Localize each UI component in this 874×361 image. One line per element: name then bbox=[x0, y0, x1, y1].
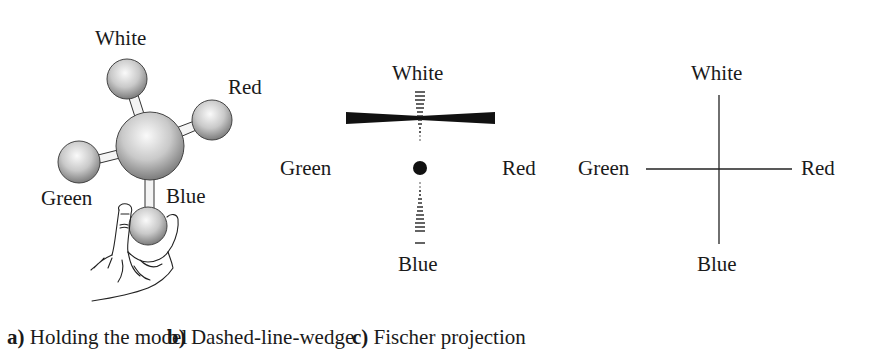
label-white: White bbox=[691, 63, 742, 84]
panel-fischer-projection: White Red Green Blue bbox=[570, 0, 874, 310]
caption-a: a) Holding the model bbox=[7, 327, 187, 348]
caption-b-text: Dashed-line-wedge bbox=[191, 325, 354, 349]
label-red: Red bbox=[801, 158, 835, 179]
red-sphere bbox=[192, 100, 232, 140]
caption-b-letter: b) bbox=[167, 325, 186, 349]
label-blue: Blue bbox=[398, 254, 438, 275]
caption-a-letter: a) bbox=[7, 325, 25, 349]
panel-holding-model: White Red Green Blue bbox=[0, 0, 290, 310]
green-sphere bbox=[58, 141, 100, 183]
label-blue: Blue bbox=[166, 186, 206, 207]
label-blue: Blue bbox=[697, 254, 737, 275]
label-white: White bbox=[392, 63, 443, 84]
white-sphere bbox=[107, 59, 147, 99]
panel-dashed-line-wedge: White Red Green Blue bbox=[270, 0, 560, 310]
caption-c-text: Fischer projection bbox=[374, 325, 526, 349]
caption-b: b) Dashed-line-wedge bbox=[167, 327, 354, 348]
wedge-red bbox=[420, 112, 495, 124]
blue-sphere bbox=[129, 207, 167, 245]
central-carbon-sphere bbox=[116, 112, 184, 180]
caption-c: c) Fischer projection bbox=[352, 327, 526, 348]
label-red: Red bbox=[502, 158, 536, 179]
label-white: White bbox=[95, 28, 146, 49]
label-green: Green bbox=[41, 188, 92, 209]
label-green: Green bbox=[578, 158, 629, 179]
caption-a-text: Holding the model bbox=[30, 325, 187, 349]
wedge-green bbox=[346, 112, 420, 124]
central-atom-dot bbox=[413, 161, 427, 175]
label-red: Red bbox=[228, 77, 262, 98]
caption-c-letter: c) bbox=[352, 325, 368, 349]
label-green: Green bbox=[280, 158, 331, 179]
hashed-bond-blue bbox=[415, 183, 425, 243]
